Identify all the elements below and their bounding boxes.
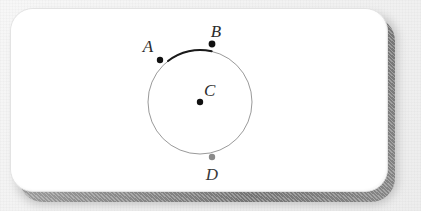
point-c-center-dot <box>197 99 203 105</box>
point-b-label: B <box>211 22 222 41</box>
arc-a-to-b <box>168 50 212 61</box>
point-d-dot <box>209 154 215 160</box>
point-a-label: A <box>142 37 154 56</box>
point-d-label: D <box>205 165 219 184</box>
circle-diagram-svg: A B C D <box>0 0 421 211</box>
point-c-label: C <box>204 81 216 100</box>
point-a-dot <box>157 57 163 63</box>
circle-diagram: A B C D <box>0 0 421 211</box>
page-canvas: A B C D <box>0 0 421 211</box>
point-b-dot <box>209 41 216 48</box>
